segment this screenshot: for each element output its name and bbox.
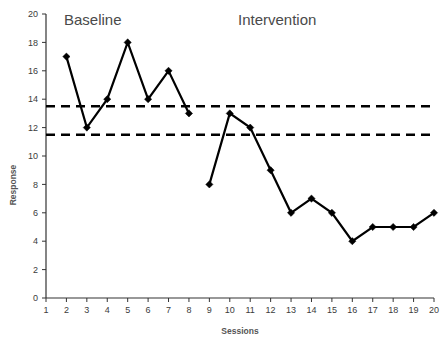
intervention-phase-label: Intervention [238, 11, 316, 28]
x-tick-label: 2 [64, 305, 69, 315]
chart-canvas: Baseline Intervention 02468101214161820 … [0, 0, 445, 349]
y-tick-label: 2 [33, 265, 38, 275]
y-tick-label: 6 [33, 208, 38, 218]
y-tick-label: 12 [28, 123, 38, 133]
x-tick-label: 9 [207, 305, 212, 315]
x-tick-label: 19 [409, 305, 419, 315]
single-case-design-chart: Baseline Intervention 02468101214161820 … [0, 0, 445, 349]
y-axis-title: Response [8, 164, 18, 205]
x-tick-label: 17 [368, 305, 378, 315]
x-tick-label: 4 [105, 305, 110, 315]
x-axis-title: Sessions [221, 326, 259, 336]
y-tick-label: 8 [33, 180, 38, 190]
y-tick-label: 4 [33, 236, 38, 246]
x-tick-label: 10 [225, 305, 235, 315]
x-tick-label: 18 [388, 305, 398, 315]
baseline-phase-label: Baseline [64, 11, 122, 28]
x-tick-label: 12 [266, 305, 276, 315]
x-tick-label: 7 [166, 305, 171, 315]
x-tick-label: 14 [306, 305, 316, 315]
y-tick-label: 0 [33, 293, 38, 303]
chart-background [0, 0, 445, 349]
y-tick-label: 16 [28, 66, 38, 76]
x-tick-label: 3 [84, 305, 89, 315]
x-tick-label: 13 [286, 305, 296, 315]
x-tick-label: 6 [146, 305, 151, 315]
y-tick-label: 14 [28, 94, 38, 104]
x-tick-label: 16 [347, 305, 357, 315]
x-tick-label: 8 [186, 305, 191, 315]
x-tick-label: 11 [246, 305, 255, 315]
x-tick-label: 5 [125, 305, 130, 315]
x-tick-label: 1 [43, 305, 48, 315]
x-tick-label: 20 [429, 305, 439, 315]
y-tick-label: 10 [28, 151, 38, 161]
y-tick-label: 20 [28, 9, 38, 19]
y-tick-label: 18 [28, 38, 38, 48]
x-tick-label: 15 [327, 305, 337, 315]
